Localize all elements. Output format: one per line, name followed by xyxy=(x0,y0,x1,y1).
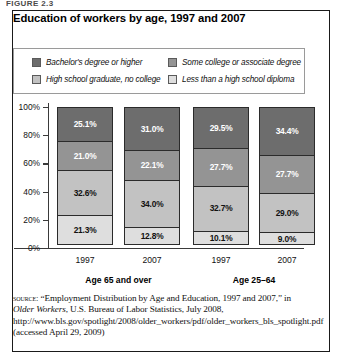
bar-segment-label: 25.1% xyxy=(74,120,97,128)
source-title-italic: Older Workers xyxy=(13,304,66,314)
stacked-bar: 29.5%27.7%32.7%10.1% xyxy=(193,107,249,248)
source-keyword: source: xyxy=(13,293,38,303)
chart-legend: Bachelor's degree or higher High school … xyxy=(13,48,305,94)
bar-segment: 25.1% xyxy=(57,107,113,142)
stacked-bar: 34.4%27.7%29.0%9.0% xyxy=(259,107,315,248)
legend-item-less-than-high-school: Less than a high school diploma xyxy=(168,75,294,84)
bar-segment-label: 10.1% xyxy=(210,234,233,242)
bar-segment: 12.8% xyxy=(124,227,180,245)
bar-segment: 31.0% xyxy=(124,107,180,151)
bar-segment-label: 22.1% xyxy=(141,161,164,169)
bar-segment: 21.3% xyxy=(57,215,113,245)
bar-segment: 32.6% xyxy=(57,170,113,216)
bar-segment-label: 29.0% xyxy=(276,209,299,217)
bar-segment-label: 27.7% xyxy=(276,170,299,178)
bar-segment: 27.7% xyxy=(259,155,315,194)
bar-segment-label: 12.8% xyxy=(141,232,164,240)
stacked-bar: 31.0%22.1%34.0%12.8% xyxy=(124,107,180,248)
bar-segment-label: 29.5% xyxy=(210,124,233,132)
group-label-age-65-and-over: Age 65 and over xyxy=(57,275,180,285)
bar-segment-label: 21.3% xyxy=(74,226,97,234)
bar-segment-label: 27.7% xyxy=(210,163,233,171)
legend-swatch-high-school-graduate xyxy=(32,75,41,84)
bar-segment: 27.7% xyxy=(193,148,249,187)
figure-caption: FIGURE 2.3 xyxy=(6,0,54,8)
legend-label-less-than-high-school: Less than a high school diploma xyxy=(182,75,294,84)
bar-segment: 10.1% xyxy=(193,231,249,245)
bar-segment: 21.0% xyxy=(57,141,113,171)
bar-segment: 32.7% xyxy=(193,186,249,232)
legend-swatch-some-college xyxy=(168,58,177,67)
x-tick-label-1997-prime: 1997 xyxy=(193,255,249,265)
legend-item-high-school-graduate: High school graduate, no college xyxy=(32,75,160,84)
bar-segment: 22.1% xyxy=(124,150,180,181)
y-tick-mark xyxy=(43,220,49,221)
legend-label-bachelors: Bachelor's degree or higher xyxy=(46,58,142,67)
y-tick-mark xyxy=(43,248,49,249)
stacked-bar: 25.1%21.0%32.6%21.3% xyxy=(57,107,113,248)
bar-segment: 9.0% xyxy=(259,232,315,245)
x-tick-label-1997-old: 1997 xyxy=(57,255,113,265)
x-tick-label-2007-old: 2007 xyxy=(124,255,180,265)
y-tick-mark xyxy=(43,163,49,164)
chart-title: Education of workers by age, 1997 and 20… xyxy=(13,12,246,24)
y-tick-mark xyxy=(43,135,49,136)
legend-swatch-bachelors xyxy=(32,58,41,67)
legend-item-bachelors: Bachelor's degree or higher xyxy=(32,58,142,67)
bar-segment-label: 32.6% xyxy=(74,189,97,197)
y-axis-line xyxy=(48,103,49,249)
group-label-age-25-64: Age 25–64 xyxy=(193,275,315,285)
legend-label-high-school-graduate: High school graduate, no college xyxy=(46,75,160,84)
bar-segment-label: 34.0% xyxy=(141,200,164,208)
y-tick-label: 80% xyxy=(8,130,40,140)
bar-segment-label: 32.7% xyxy=(210,204,233,212)
bar-segment-label: 9.0% xyxy=(278,235,296,243)
source-text-part-1: “Employment Distribution by Age and Educ… xyxy=(38,293,291,303)
bar-segment-label: 31.0% xyxy=(141,125,164,133)
y-tick-label: 100% xyxy=(8,102,40,112)
source-note: source: “Employment Distribution by Age … xyxy=(13,293,303,339)
y-tick-mark xyxy=(43,192,49,193)
bar-segment: 34.0% xyxy=(124,180,180,228)
y-tick-label: 60% xyxy=(8,158,40,168)
x-axis-line xyxy=(14,248,304,249)
y-tick-label: 20% xyxy=(8,215,40,225)
y-tick-mark xyxy=(43,107,49,108)
chart-plot-area: 100%80%60%40%20%0% 25.1%21.0%32.6%21.3%3… xyxy=(0,103,318,253)
y-tick-label: 40% xyxy=(8,187,40,197)
bar-segment-label: 34.4% xyxy=(276,127,299,135)
bar-segment: 29.0% xyxy=(259,193,315,234)
legend-item-some-college: Some college or associate degree xyxy=(168,58,301,67)
y-tick-label: 0% xyxy=(8,243,40,253)
bar-segment: 29.5% xyxy=(193,107,249,149)
bar-segment: 34.4% xyxy=(259,107,315,156)
x-tick-label-2007-prime: 2007 xyxy=(259,255,315,265)
bar-segment-label: 21.0% xyxy=(74,152,97,160)
legend-label-some-college: Some college or associate degree xyxy=(182,58,301,67)
legend-swatch-less-than-high-school xyxy=(168,75,177,84)
